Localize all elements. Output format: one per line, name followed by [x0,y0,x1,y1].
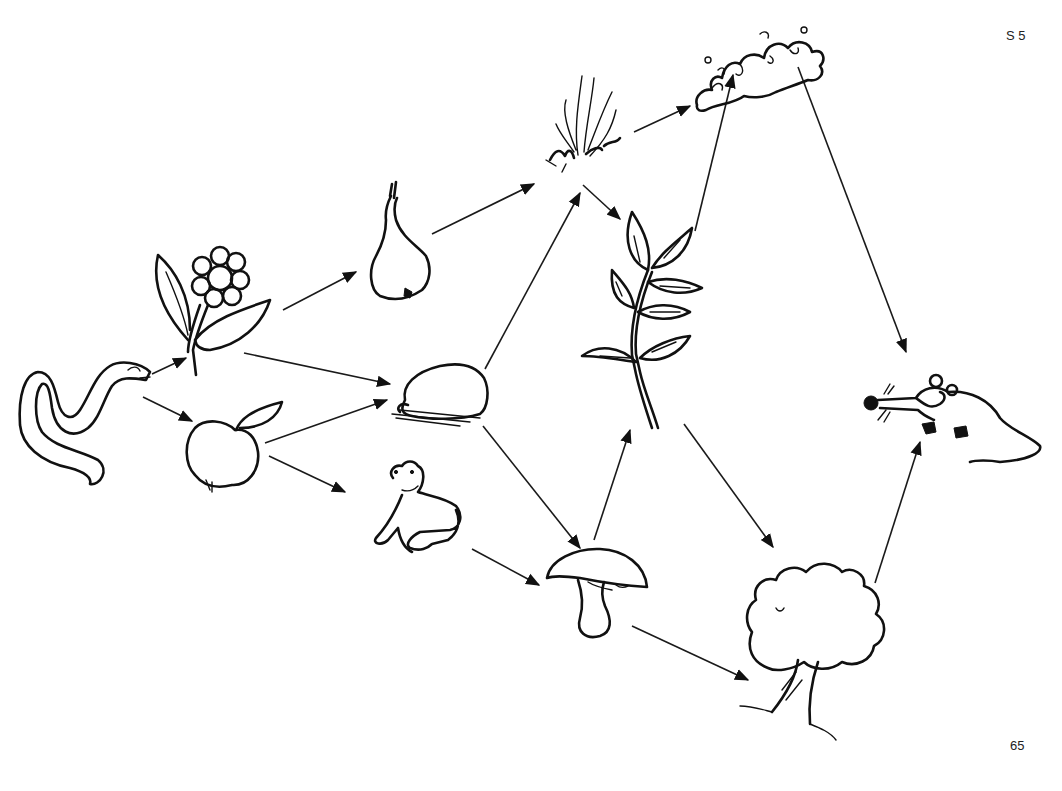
stone-icon [392,364,487,426]
arrow-stone-to-grass [485,193,580,369]
arrow-snake-to-flower [152,358,186,374]
arrow-flower-to-stone [244,353,390,384]
arrow-apple-to-frog [269,456,345,492]
mouse-icon [864,375,1040,462]
pear-icon [371,182,429,299]
grass-tuft-icon [546,76,620,172]
arrow-pear-to-grass [432,184,534,234]
arrow-grass-to-cloud [634,106,690,132]
arrow-cloud-to-mouse [798,67,906,352]
arrow-grass-to-branch [583,185,620,219]
arrow-branch-to-tree [684,424,773,547]
apple-icon [187,402,282,492]
arrow-tree-to-mouse [875,442,920,583]
arrow-snake-to-apple [143,397,192,421]
tree-icon [740,564,884,740]
arrows-layer [143,67,920,680]
mushroom-icon [547,549,647,637]
arrow-mushroom-to-tree [632,626,748,680]
food-web-diagram [0,0,1062,791]
arrow-branch-to-cloud [695,75,733,231]
frog-icon [375,462,460,553]
snake-icon [20,363,150,485]
arrow-frog-to-mushroom [472,549,539,585]
arrow-apple-to-stone [265,400,387,443]
arrow-stone-to-mushroom [483,426,580,548]
flower-icon [156,247,270,375]
arrow-mushroom-to-branch [594,430,630,540]
leafy-branch-icon [582,212,702,428]
arrow-flower-to-pear [283,272,356,310]
cloud-icon [696,27,823,111]
